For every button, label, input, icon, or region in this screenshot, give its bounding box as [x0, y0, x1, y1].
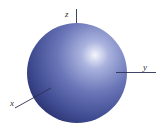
y-axis-label: y — [142, 62, 147, 72]
z-axis-label: z — [64, 9, 69, 19]
sphere-diagram: z y x — [0, 0, 164, 133]
x-axis-label: x — [9, 98, 14, 108]
sphere — [27, 23, 127, 123]
